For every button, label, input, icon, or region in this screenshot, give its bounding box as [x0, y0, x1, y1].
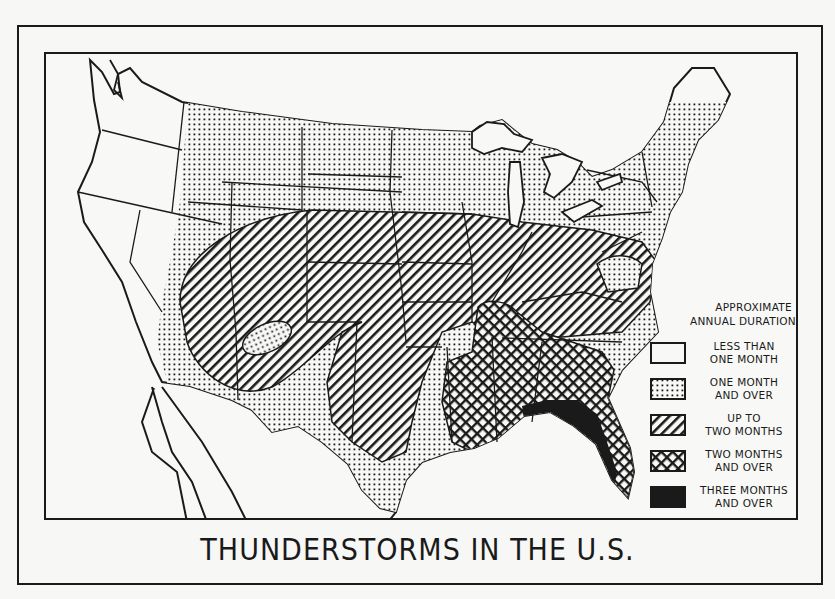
- mexico-gulf-coast: [388, 512, 396, 520]
- legend-heading: APPROXIMATE ANNUAL DURATION: [648, 300, 796, 328]
- dots-swatch-icon: [650, 378, 686, 400]
- legend-label-line2: AND OVER: [692, 461, 796, 474]
- legend-heading-line1: APPROXIMATE: [648, 300, 796, 314]
- legend-label-line1: THREE MONTHS: [692, 484, 796, 497]
- legend-label-line1: LESS THAN: [692, 340, 796, 353]
- legend-item-two-months-and-over: TWO MONTHS AND OVER: [650, 450, 798, 476]
- legend-item-one-month-and-over: ONE MONTH AND OVER: [650, 378, 798, 404]
- blank-swatch-icon: [650, 342, 686, 364]
- legend-label-line2: ONE MONTH: [692, 353, 796, 366]
- legend-label-line2: AND OVER: [692, 497, 796, 510]
- legend-label-line1: TWO MONTHS: [692, 448, 796, 461]
- legend-label-line2: TWO MONTHS: [692, 425, 796, 438]
- legend-label-line2: AND OVER: [692, 389, 796, 402]
- legend-label-line1: ONE MONTH: [692, 376, 796, 389]
- legend-item-up-to-two-months: UP TO TWO MONTHS: [650, 414, 798, 440]
- crosshatch-swatch-icon: [650, 450, 686, 472]
- mexico-coast: [162, 387, 247, 520]
- map-title: THUNDERSTORMS IN THE U.S.: [0, 532, 835, 567]
- legend-item-less-than-one-month: LESS THAN ONE MONTH: [650, 342, 798, 368]
- legend-heading-line2: ANNUAL DURATION: [648, 314, 796, 328]
- baja-inner: [142, 388, 187, 520]
- solid-swatch-icon: [650, 486, 686, 508]
- baja-outline: [152, 387, 207, 520]
- stripes-swatch-icon: [650, 414, 686, 436]
- legend-item-three-months-and-over: THREE MONTHS AND OVER: [650, 486, 798, 512]
- legend-label-line1: UP TO: [692, 412, 796, 425]
